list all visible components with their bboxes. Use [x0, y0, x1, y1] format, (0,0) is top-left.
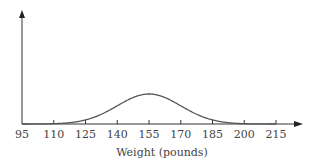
x-tick-label: 215 [266, 128, 287, 141]
x-tick-label: 110 [43, 128, 64, 141]
normal-curve-chart: 95110125140155170185200215 Weight (pound… [0, 0, 314, 162]
x-tick-label: 95 [15, 128, 29, 141]
axes [19, 10, 303, 127]
x-tick-label: 170 [170, 128, 191, 141]
normal-curve [22, 94, 276, 124]
x-tick-label: 140 [107, 128, 128, 141]
x-tick-label: 125 [75, 128, 96, 141]
x-tick-label: 200 [234, 128, 255, 141]
y-axis-arrow-icon [19, 10, 25, 18]
x-axis-arrow-icon [294, 121, 303, 127]
x-tick-label: 185 [202, 128, 223, 141]
x-tick-label: 155 [139, 128, 160, 141]
x-tick-labels: 95110125140155170185200215 [15, 128, 287, 141]
x-axis-label: Weight (pounds) [116, 146, 208, 159]
